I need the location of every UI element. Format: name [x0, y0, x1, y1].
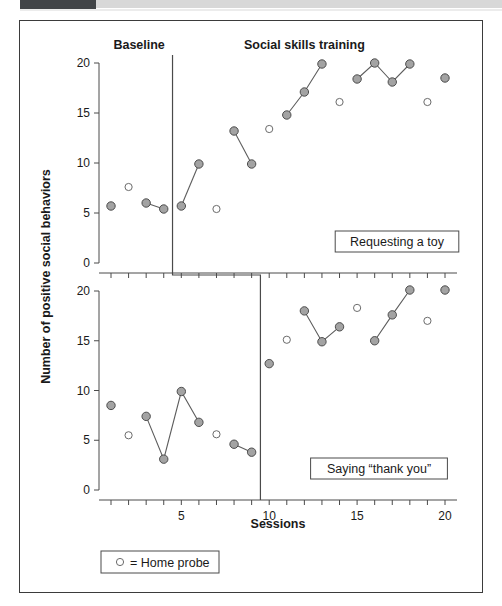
open-circle-icon	[116, 558, 123, 565]
data-point-open-probe[interactable]	[424, 317, 431, 324]
figure-container: 05101520051015205101520BaselineSocial sk…	[19, 20, 483, 593]
data-point-filled[interactable]	[318, 60, 326, 68]
y-tick-label: 20	[77, 56, 91, 70]
y-tick-label: 0	[83, 483, 90, 497]
y-tick-label: 0	[83, 256, 90, 270]
data-point-filled[interactable]	[335, 323, 343, 331]
panel-label-requesting-a-toy: Requesting a toy	[335, 231, 459, 252]
page-root: 05101520051015205101520BaselineSocial sk…	[0, 0, 502, 606]
data-point-filled[interactable]	[318, 338, 326, 346]
data-point-filled[interactable]	[353, 75, 361, 83]
header-accent-bar-shadow	[20, 9, 502, 11]
series-treatment-sessions	[265, 286, 449, 368]
x-tick-label: 15	[350, 509, 364, 523]
data-point-open-probe[interactable]	[336, 98, 343, 105]
data-point-filled[interactable]	[283, 111, 291, 119]
data-point-filled[interactable]	[247, 160, 255, 168]
y-tick-label: 15	[77, 106, 91, 120]
data-point-filled[interactable]	[441, 286, 449, 294]
chart-svg: 05101520051015205101520BaselineSocial sk…	[20, 21, 482, 592]
data-point-filled[interactable]	[230, 440, 238, 448]
y-tick-label: 10	[77, 384, 91, 398]
data-point-filled[interactable]	[177, 387, 185, 395]
y-tick-label: 20	[77, 284, 91, 298]
data-point-open-probe[interactable]	[354, 304, 361, 311]
data-point-filled[interactable]	[265, 359, 273, 367]
chart-panel-bottom: 051015205101520	[77, 284, 457, 523]
legend-home-probe: = Home probe	[101, 551, 219, 573]
panel-label-saying-thank-you: Saying “thank you”	[311, 458, 448, 479]
series-baseline-sessions	[107, 387, 256, 463]
x-axis-title: Sessions	[251, 517, 306, 531]
y-tick-label: 5	[83, 206, 90, 220]
data-point-filled[interactable]	[107, 401, 115, 409]
x-tick-label: 20	[438, 509, 452, 523]
panel-label-requesting-a-toy-text: Requesting a toy	[350, 235, 445, 249]
data-point-filled[interactable]	[195, 418, 203, 426]
data-point-filled[interactable]	[370, 337, 378, 345]
data-point-filled[interactable]	[388, 311, 396, 319]
series-connector-line	[146, 391, 199, 459]
data-point-filled[interactable]	[441, 74, 449, 82]
data-point-open-probe[interactable]	[125, 432, 132, 439]
y-tick-label: 10	[77, 156, 91, 170]
legend-label: = Home probe	[130, 556, 210, 570]
data-point-filled[interactable]	[230, 127, 238, 135]
panel-label-saying-thank-you-text: Saying “thank you”	[327, 462, 431, 476]
data-point-open-probe[interactable]	[283, 336, 290, 343]
series-home-probe	[125, 98, 431, 212]
y-axis-title: Number of positive social behaviors	[39, 169, 53, 384]
header-accent-bar-dark	[20, 0, 96, 9]
phase-label-baseline: Baseline	[113, 38, 164, 52]
data-point-filled[interactable]	[142, 199, 150, 207]
series-treatment-sessions	[177, 59, 449, 210]
data-point-open-probe[interactable]	[266, 125, 273, 132]
data-point-filled[interactable]	[247, 448, 255, 456]
y-tick-label: 15	[77, 334, 91, 348]
y-tick-label: 5	[83, 433, 90, 447]
x-tick-label: 5	[178, 509, 185, 523]
data-point-filled[interactable]	[160, 455, 168, 463]
data-point-filled[interactable]	[160, 205, 168, 213]
data-point-filled[interactable]	[300, 307, 308, 315]
data-point-open-probe[interactable]	[125, 183, 132, 190]
data-point-open-probe[interactable]	[213, 205, 220, 212]
data-point-open-probe[interactable]	[213, 431, 220, 438]
data-point-filled[interactable]	[195, 160, 203, 168]
series-connector-line	[234, 131, 252, 164]
data-point-filled[interactable]	[370, 59, 378, 67]
data-point-filled[interactable]	[406, 286, 414, 294]
series-baseline-sessions	[107, 199, 168, 213]
data-point-filled[interactable]	[177, 202, 185, 210]
data-point-filled[interactable]	[107, 202, 115, 210]
data-point-filled[interactable]	[300, 88, 308, 96]
series-connector-line	[357, 63, 410, 82]
data-point-open-probe[interactable]	[424, 98, 431, 105]
header-accent-bar-light	[96, 0, 502, 8]
series-connector-line	[181, 164, 199, 206]
data-point-filled[interactable]	[406, 60, 414, 68]
data-point-filled[interactable]	[142, 412, 150, 420]
data-point-filled[interactable]	[388, 78, 396, 86]
phase-label-treatment: Social skills training	[244, 38, 365, 52]
